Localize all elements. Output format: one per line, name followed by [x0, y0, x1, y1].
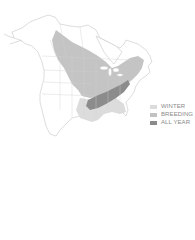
winter-swatch	[150, 105, 157, 109]
legend-label: WINTER	[161, 103, 185, 110]
all-year-swatch	[150, 121, 157, 125]
breeding-swatch	[150, 113, 157, 117]
legend-label: ALL YEAR	[161, 119, 190, 126]
legend-label: BREEDING	[161, 111, 193, 118]
legend-item-winter: WINTER	[150, 103, 193, 111]
legend-item-breeding: BREEDING	[150, 111, 193, 119]
legend-item-all-year: ALL YEAR	[150, 119, 193, 127]
legend: WINTER BREEDING ALL YEAR	[150, 103, 193, 127]
